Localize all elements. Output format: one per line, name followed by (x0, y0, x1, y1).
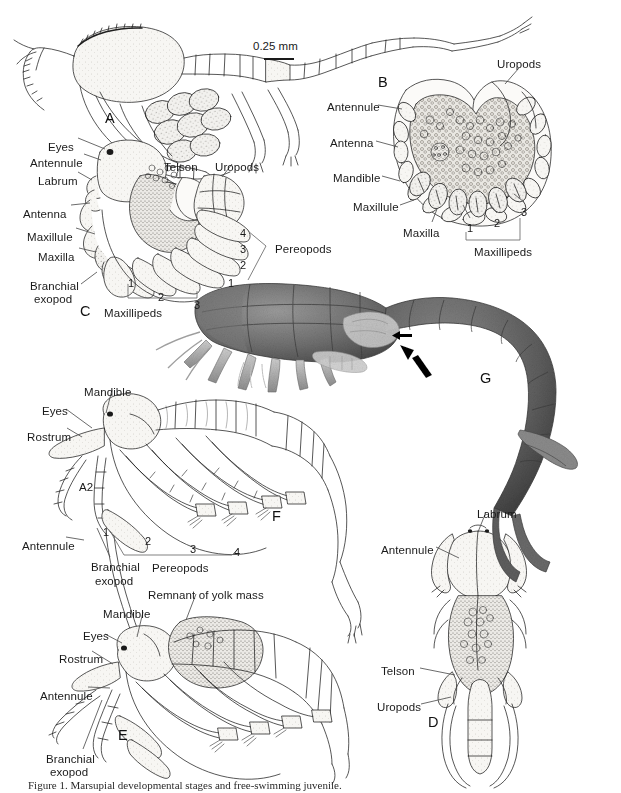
label-b-uropods: Uropods (497, 58, 541, 71)
label-c-uropods: Uropods (215, 161, 259, 174)
panel-letter-b: B (378, 74, 388, 90)
label-b-maxillule: Maxillule (353, 201, 399, 214)
label-d-uropods: Uropods (377, 701, 421, 714)
figure-plate: 0.25 mm UropodsAntennuleAntennaMandibleM… (0, 0, 621, 793)
panel-letter-c: C (80, 303, 90, 319)
label-d-telson: Telson (381, 665, 415, 678)
label-b-maxilla: Maxilla (403, 227, 440, 240)
label-e-branchial: Branchial (46, 753, 95, 766)
label-e-eyes: Eyes (83, 630, 109, 643)
label-f-exopod: exopod (95, 575, 133, 588)
pereopods-bracket-f (110, 531, 238, 555)
label-c-3: 3 (240, 243, 246, 255)
label-f-branchial: Branchial (91, 561, 140, 574)
label-c-pereopods: Pereopods (275, 243, 332, 256)
leader-line-b (376, 141, 398, 147)
panel-letter-f: F (272, 508, 281, 524)
pereopods-bracket-c (248, 231, 266, 280)
panel-d-drawing (431, 525, 526, 788)
leader-line-b (463, 205, 470, 218)
panel-letter-a: A (105, 110, 115, 126)
scale-bar-line (264, 58, 294, 60)
label-c-eyes: Eyes (48, 141, 74, 154)
label-e-mandible: Mandible (103, 608, 150, 621)
panel-letter-e: E (118, 727, 128, 743)
label-c-antenna: Antenna (23, 208, 67, 221)
label-c-branchial: Branchial (30, 280, 79, 293)
label-d-antennule: Antennule (381, 544, 434, 557)
label-c-2: 2 (240, 259, 246, 271)
label-c-telson: Telson (164, 161, 198, 174)
maxillipeds-bracket-b (466, 218, 520, 240)
leader-line-c (84, 154, 101, 160)
panel-letter-d: D (428, 714, 438, 730)
label-b-1: 1 (467, 222, 473, 234)
label-c-maxillule: Maxillule (27, 231, 73, 244)
label-e-exopod: exopod (50, 766, 88, 779)
leader-line-b (489, 203, 497, 213)
panel-f-drawing (49, 394, 362, 662)
leader-line-d (421, 697, 451, 704)
label-f-rostrum: Rostrum (27, 431, 71, 444)
leader-line-b (514, 194, 524, 202)
label-c-2: 2 (158, 291, 164, 303)
label-c-labrum: Labrum (38, 175, 78, 188)
label-c-3: 3 (194, 299, 200, 311)
label-c-maxillipeds: Maxillipeds (104, 307, 162, 320)
scale-bar-label: 0.25 mm (253, 40, 298, 52)
leader-line-e (83, 700, 102, 749)
label-f-pereopods: Pereopods (152, 562, 209, 575)
leader-line-d (420, 668, 455, 675)
leader-line-e (88, 687, 110, 688)
panel-b-drawing (391, 79, 553, 226)
label-b-2: 2 (494, 217, 500, 229)
leader-line-d (436, 547, 459, 558)
label-f-a2: A2 (79, 481, 93, 494)
leader-line-c (79, 248, 96, 252)
figure-caption: Figure 1. Marsupial developmental stages… (28, 779, 613, 793)
label-b-maxillipeds: Maxillipeds (474, 246, 532, 259)
label-e-rostrum: Rostrum (59, 653, 103, 666)
label-c-exopod: exopod (34, 293, 72, 306)
label-f-mandible: Mandible (84, 386, 131, 399)
label-d-labrum: Labrum (477, 508, 517, 521)
leader-line-b (378, 105, 402, 109)
label-f-3: 3 (190, 543, 196, 555)
sem-arrow-small (392, 331, 412, 340)
leader-line-c (78, 138, 105, 149)
label-c-1: 1 (128, 277, 134, 289)
label-c-4: 4 (240, 227, 246, 239)
label-c-1: 1 (228, 277, 234, 289)
label-f-2: 2 (145, 535, 151, 547)
leader-line-c (71, 203, 90, 205)
label-b-antenna: Antenna (330, 137, 374, 150)
label-b-mandible: Mandible (333, 172, 380, 185)
label-b-antennule: Antennule (327, 101, 380, 114)
panel-g-sem (156, 284, 578, 582)
panel-letter-g: G (480, 370, 491, 386)
label-f-eyes: Eyes (42, 405, 68, 418)
label-f-antennule: Antennule (22, 540, 75, 553)
label-c-maxilla: Maxilla (38, 251, 75, 264)
sem-arrow-large (400, 345, 432, 378)
label-b-3: 3 (521, 206, 527, 218)
label-c-antennule: Antennule (30, 157, 83, 170)
leader-line-b (432, 209, 437, 222)
label-e-antennule: Antennule (40, 690, 93, 703)
label-f-1: 1 (103, 526, 109, 538)
leader-line-c (81, 272, 97, 284)
leader-line-f (66, 409, 92, 428)
leader-line-c (78, 172, 92, 180)
leader-line-b (400, 200, 414, 205)
label-f-4: 4 (234, 546, 240, 558)
leader-line-c (76, 228, 95, 234)
leader-line-b (382, 176, 400, 181)
label-e-remnant-of-yolk-mass: Remnant of yolk mass (148, 589, 264, 602)
